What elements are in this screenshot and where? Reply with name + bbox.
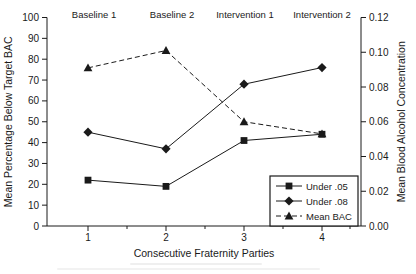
triangle-marker [240,117,249,125]
phase-label: Baseline 1 [72,9,116,20]
line-chart: 01020304050607080901000.000.020.040.060.… [0,0,416,274]
y-axis-left-tick-label: 80 [28,54,40,65]
x-axis-tick-label: 1 [85,232,91,243]
y-axis-left-tick-label: 10 [28,200,40,211]
y-axis-left-tick-label: 20 [28,179,40,190]
y-axis-left-tick-label: 90 [28,33,40,44]
y-axis-left-tick-label: 70 [28,75,40,86]
cropped-caption-remnant [57,268,320,270]
legend-entry-label: Mean BAC [306,211,352,222]
x-axis-title: Consecutive Fraternity Parties [134,247,275,259]
diamond-marker [83,128,92,137]
y-axis-left-tick-label: 30 [28,158,40,169]
x-axis-tick-label: 3 [241,232,247,243]
y-axis-right-title: Mean Blood Alcohol Concentration [395,41,407,202]
y-axis-right-tick-label: 0.06 [369,116,389,127]
y-axis-left-tick-label: 50 [28,116,40,127]
y-axis-right-tick-label: 0.04 [369,151,389,162]
y-axis-right-tick-label: 0.08 [369,82,389,93]
diamond-marker [317,63,326,72]
phase-label: Baseline 2 [150,9,194,20]
legend-entry-label: Under .05 [306,181,348,192]
triangle-marker [162,46,171,54]
y-axis-right-tick-label: 0.10 [369,47,389,58]
y-axis-right-tick-label: 0.00 [369,221,389,232]
legend-entry-label: Under .08 [306,196,348,207]
y-axis-left-tick-label: 0 [33,221,39,232]
y-axis-right-tick-label: 0.12 [369,12,389,23]
phase-label: Intervention 2 [293,9,351,20]
x-axis-tick-label: 4 [319,232,325,243]
square-marker [241,137,248,144]
square-marker [85,177,92,184]
cropped-caption-remnant [130,263,262,265]
square-marker [163,183,170,190]
legend-marker [286,183,293,190]
y-axis-left-tick-label: 40 [28,137,40,148]
series-line-mean-bac [88,51,322,134]
y-axis-left-tick-label: 100 [22,12,39,23]
x-axis-tick-label: 2 [163,232,169,243]
phase-label: Intervention 1 [216,9,274,20]
bac-line-chart-figure: 01020304050607080901000.000.020.040.060.… [0,0,416,274]
y-axis-right-tick-label: 0.02 [369,186,389,197]
y-axis-left-tick-label: 60 [28,95,40,106]
y-axis-left-title: Mean Percentage Below Target BAC [2,36,14,207]
